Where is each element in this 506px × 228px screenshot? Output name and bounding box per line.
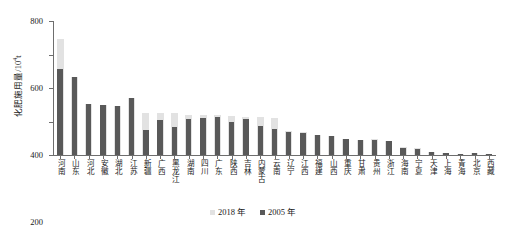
bar-2005[interactable] bbox=[372, 140, 377, 155]
bar-2005[interactable] bbox=[315, 135, 320, 155]
bar-group[interactable] bbox=[242, 21, 249, 155]
bar-group[interactable] bbox=[385, 21, 392, 155]
x-axis-label: 青海 bbox=[456, 159, 465, 175]
bar-2005[interactable] bbox=[300, 133, 305, 155]
x-axis-label: 重庆 bbox=[341, 159, 350, 175]
y-axis-title-unit: t bbox=[13, 55, 23, 57]
bar-2005[interactable] bbox=[243, 119, 248, 155]
x-axis-label: 辽宁 bbox=[284, 159, 293, 175]
legend-label: 2005 年 bbox=[268, 205, 296, 217]
x-axis-label: 上海 bbox=[441, 159, 450, 175]
bar-2005[interactable] bbox=[400, 148, 405, 155]
x-axis-label: 宁夏 bbox=[413, 159, 422, 175]
x-axis-label: 广西 bbox=[156, 159, 165, 175]
y-axis-title-base: 化肥施用量/10 bbox=[13, 61, 23, 117]
bar-group[interactable] bbox=[85, 21, 92, 155]
bar-2005[interactable] bbox=[472, 153, 477, 155]
bar-group[interactable] bbox=[285, 21, 292, 155]
x-axis-label: 天津 bbox=[427, 159, 436, 175]
bar-2005[interactable] bbox=[386, 141, 391, 155]
bar-2005[interactable] bbox=[329, 136, 334, 155]
bar-group[interactable] bbox=[214, 21, 221, 155]
bar-group[interactable] bbox=[471, 21, 478, 155]
y-tick-label: 600 bbox=[30, 83, 43, 93]
bar-group[interactable] bbox=[171, 21, 178, 155]
bar-group[interactable] bbox=[57, 21, 64, 155]
bar-group[interactable] bbox=[300, 21, 307, 155]
bar-group[interactable] bbox=[428, 21, 435, 155]
legend-swatch bbox=[260, 210, 265, 215]
bar-group[interactable] bbox=[357, 21, 364, 155]
y-tick-mark: 400 bbox=[49, 88, 53, 89]
bar-group[interactable] bbox=[328, 21, 335, 155]
bar-group[interactable] bbox=[271, 21, 278, 155]
bar-2005[interactable] bbox=[143, 130, 148, 155]
x-axis-label: 吉林 bbox=[241, 159, 250, 175]
bar-2005[interactable] bbox=[72, 77, 77, 155]
x-axis-label: 江西 bbox=[299, 159, 308, 175]
bar-group[interactable] bbox=[414, 21, 421, 155]
x-axis-label: 河南 bbox=[56, 159, 65, 175]
legend-label: 2018 年 bbox=[218, 205, 246, 217]
x-axis-label: 西藏 bbox=[484, 159, 493, 175]
bar-2005[interactable] bbox=[86, 104, 91, 155]
bar-group[interactable] bbox=[142, 21, 149, 155]
x-axis-label: 海南 bbox=[399, 159, 408, 175]
legend-swatch bbox=[210, 210, 215, 215]
bar-group[interactable] bbox=[114, 21, 121, 155]
bar-2005[interactable] bbox=[215, 117, 220, 155]
bar-2005[interactable] bbox=[186, 119, 191, 155]
x-axis-label: 广东 bbox=[213, 159, 222, 175]
bar-2005[interactable] bbox=[200, 118, 205, 155]
bar-2005[interactable] bbox=[358, 140, 363, 155]
bar-2005[interactable] bbox=[443, 153, 448, 155]
x-axis-label: 北京 bbox=[470, 159, 479, 175]
bar-group[interactable] bbox=[257, 21, 264, 155]
bar-group[interactable] bbox=[342, 21, 349, 155]
bar-2005[interactable] bbox=[115, 106, 120, 155]
bar-group[interactable] bbox=[100, 21, 107, 155]
x-axis-label: 四川 bbox=[199, 159, 208, 175]
legend-item[interactable]: 2005 年 bbox=[260, 205, 296, 217]
bar-2005[interactable] bbox=[415, 149, 420, 155]
bar-2005[interactable] bbox=[157, 120, 162, 155]
legend-item[interactable]: 2018 年 bbox=[210, 205, 246, 217]
bar-group[interactable] bbox=[200, 21, 207, 155]
bar-group[interactable] bbox=[71, 21, 78, 155]
bar-group[interactable] bbox=[485, 21, 492, 155]
bar-2005[interactable] bbox=[100, 105, 105, 155]
bar-2005[interactable] bbox=[272, 129, 277, 155]
bar-group[interactable] bbox=[457, 21, 464, 155]
bar-2005[interactable] bbox=[343, 139, 348, 155]
bar-2005[interactable] bbox=[129, 98, 134, 155]
bar-2005[interactable] bbox=[286, 132, 291, 155]
x-axis-label: 湖南 bbox=[184, 159, 193, 175]
bar-group[interactable] bbox=[128, 21, 135, 155]
y-tick-label: 400 bbox=[30, 150, 43, 160]
bar-2005[interactable] bbox=[229, 122, 234, 155]
bar-2005[interactable] bbox=[486, 154, 491, 155]
bar-group[interactable] bbox=[371, 21, 378, 155]
bar-2005[interactable] bbox=[429, 152, 434, 155]
bar-group[interactable] bbox=[157, 21, 164, 155]
bar-2005[interactable] bbox=[458, 154, 463, 155]
bar-2005[interactable] bbox=[57, 69, 62, 155]
x-axis-label: 山东 bbox=[70, 159, 79, 175]
bar-group[interactable] bbox=[314, 21, 321, 155]
bar-group[interactable] bbox=[185, 21, 192, 155]
x-axis-label: 山西 bbox=[327, 159, 336, 175]
bar-group[interactable] bbox=[442, 21, 449, 155]
x-axis-label: 内蒙古 bbox=[256, 159, 265, 183]
x-axis-label: 福建 bbox=[313, 159, 322, 175]
bar-2005[interactable] bbox=[172, 127, 177, 155]
chart-legend: 2018 年2005 年 bbox=[0, 205, 506, 217]
y-axis-title-superscript: 4 bbox=[12, 58, 18, 61]
x-axis-label: 陕西 bbox=[227, 159, 236, 175]
y-tick-label: 800 bbox=[30, 16, 43, 26]
bar-2005[interactable] bbox=[258, 126, 263, 155]
y-tick-label: 200 bbox=[30, 217, 43, 227]
plot-area: 0200400600800 bbox=[53, 21, 496, 155]
x-axis-label: 安徽 bbox=[99, 159, 108, 175]
bar-group[interactable] bbox=[400, 21, 407, 155]
bar-group[interactable] bbox=[228, 21, 235, 155]
